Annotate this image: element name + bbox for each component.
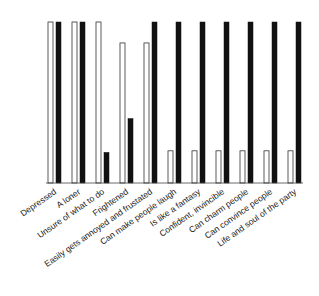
bar-white-5 (168, 151, 173, 183)
bar-white-0 (48, 22, 53, 183)
x-tick-labels: DepressedA lonerUnsure of what to doFrig… (18, 186, 298, 269)
bar-white-2 (96, 22, 101, 183)
bar-black-9 (272, 22, 277, 183)
bar-white-8 (240, 151, 245, 183)
bar-black-2 (104, 152, 109, 183)
bar-black-0 (56, 22, 61, 183)
bar-black-1 (80, 22, 85, 183)
bar-black-7 (224, 22, 229, 183)
bar-black-4 (152, 22, 157, 183)
bar-white-6 (192, 151, 197, 183)
bar-white-1 (72, 22, 77, 183)
bars-group (48, 22, 301, 183)
bar-black-5 (176, 22, 181, 183)
bar-black-3 (128, 119, 133, 183)
x-tick-label: Depressed (18, 186, 58, 218)
bar-white-9 (264, 151, 269, 183)
bar-white-3 (120, 43, 125, 183)
bar-black-6 (200, 22, 205, 183)
bar-black-8 (248, 22, 253, 183)
bar-white-7 (216, 151, 221, 183)
grouped-bar-chart: DepressedA lonerUnsure of what to doFrig… (0, 0, 319, 296)
bar-white-4 (144, 43, 149, 183)
bar-white-10 (288, 151, 293, 183)
bar-black-10 (296, 22, 301, 183)
